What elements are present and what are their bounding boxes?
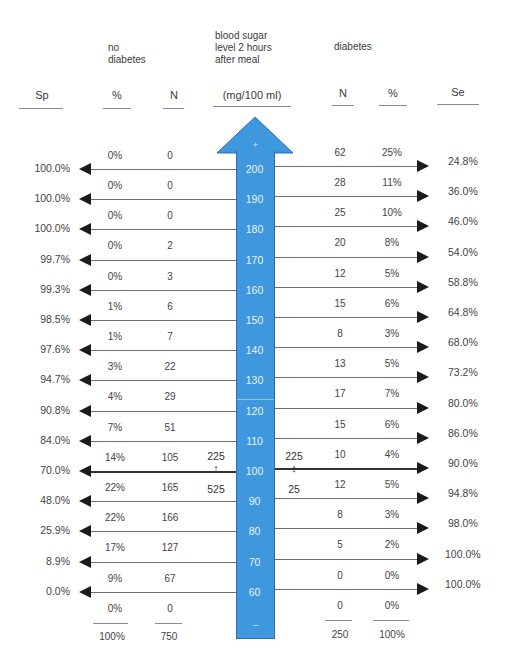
threshold-line-left bbox=[88, 260, 237, 261]
arrowhead-left-icon bbox=[79, 586, 91, 598]
sensitivity-value: 94.8% bbox=[448, 487, 505, 499]
arrowhead-right-icon bbox=[417, 190, 429, 202]
no-diabetes-n: 2 bbox=[150, 240, 190, 251]
diabetes-pct: 0% bbox=[372, 600, 412, 611]
arrowhead-right-icon bbox=[417, 281, 429, 293]
no-diabetes-pct: 0% bbox=[95, 210, 135, 221]
no-diabetes-pct: 1% bbox=[95, 331, 135, 342]
diabetes-n: 20 bbox=[320, 237, 360, 248]
threshold-line-right bbox=[274, 287, 418, 288]
specificity-value: 100.0% bbox=[10, 192, 70, 204]
diabetes-pct: 11% bbox=[372, 177, 412, 188]
column-header-d-n: N bbox=[332, 87, 354, 99]
specificity-value: 94.7% bbox=[10, 373, 70, 385]
diabetes-pct: 0% bbox=[372, 570, 412, 581]
column-header-unit: (mg/100 ml) bbox=[213, 89, 291, 101]
blood-sugar-tick: 130 bbox=[236, 374, 273, 386]
no-diabetes-n: 6 bbox=[150, 301, 190, 312]
no-diabetes-pct: 14% bbox=[95, 452, 135, 463]
column-underline-d-pct bbox=[379, 105, 407, 106]
total-d-pct: 100% bbox=[372, 629, 412, 640]
arrowhead-left-icon bbox=[79, 254, 91, 266]
specificity-value: 100.0% bbox=[10, 162, 70, 174]
no-diabetes-n: 67 bbox=[150, 573, 190, 584]
arrowhead-right-icon bbox=[417, 371, 429, 383]
no-diabetes-n: 51 bbox=[150, 422, 190, 433]
diabetes-n: 10 bbox=[320, 449, 360, 460]
plus-icon: + bbox=[236, 140, 275, 150]
diabetes-pct: 8% bbox=[372, 237, 412, 248]
threshold-line-right bbox=[274, 347, 418, 348]
no-diabetes-n: 22 bbox=[150, 361, 190, 372]
diabetes-pct: 10% bbox=[372, 207, 412, 218]
diabetes-pct: 2% bbox=[372, 539, 412, 550]
sensitivity-value: 64.8% bbox=[448, 306, 505, 318]
threshold-line-right bbox=[274, 317, 418, 318]
no-diabetes-n: 127 bbox=[150, 542, 190, 553]
sensitivity-value: 100.0% bbox=[445, 578, 505, 590]
blood-sugar-tick: 160 bbox=[236, 284, 273, 296]
header-blood-sugar: blood sugar level 2 hours after meal bbox=[215, 30, 272, 66]
diabetes-pct: 5% bbox=[372, 479, 412, 490]
threshold-line-right bbox=[274, 528, 418, 529]
threshold-line-right bbox=[274, 438, 418, 439]
arrowhead-left-icon bbox=[79, 495, 91, 507]
column-header-nd-pct: % bbox=[103, 89, 131, 101]
sensitivity-value: 98.0% bbox=[448, 517, 505, 529]
threshold-line-left bbox=[88, 290, 237, 291]
diabetes-pct: 5% bbox=[372, 358, 412, 369]
arrowhead-left-icon bbox=[79, 314, 91, 326]
diabetes-pct: 3% bbox=[372, 328, 412, 339]
no-diabetes-n: 0 bbox=[150, 180, 190, 191]
no-diabetes-pct: 22% bbox=[95, 512, 135, 523]
sensitivity-value: 90.0% bbox=[448, 457, 505, 469]
arrowhead-right-icon bbox=[417, 160, 429, 172]
no-diabetes-n: 105 bbox=[150, 452, 190, 463]
arrowhead-left-icon bbox=[79, 435, 91, 447]
arrowhead-right-icon bbox=[417, 462, 429, 474]
diabetes-n: 62 bbox=[320, 147, 360, 158]
arrow-faint-divider bbox=[237, 399, 274, 400]
blood-sugar-tick: 200 bbox=[236, 163, 273, 175]
diabetes-pct: 4% bbox=[372, 449, 412, 460]
specificity-value: 48.0% bbox=[10, 494, 70, 506]
diabetes-n: 15 bbox=[320, 419, 360, 430]
column-underline-nd-n bbox=[163, 108, 184, 109]
specificity-value: 98.5% bbox=[10, 313, 70, 325]
no-diabetes-pct: 3% bbox=[95, 361, 135, 372]
threshold-line-left bbox=[88, 380, 237, 381]
cutoff-right-above: 225 bbox=[279, 450, 309, 462]
no-diabetes-pct: 0% bbox=[95, 603, 135, 614]
arrowhead-right-icon bbox=[417, 251, 429, 263]
diabetes-pct: 25% bbox=[372, 147, 412, 158]
cutoff-left-below: 525 bbox=[201, 483, 231, 495]
arrowhead-left-icon bbox=[79, 344, 91, 356]
total-underline-nd-n bbox=[155, 623, 182, 624]
arrowhead-left-icon bbox=[79, 374, 91, 386]
arrowhead-left-icon bbox=[79, 163, 91, 175]
arrowhead-left-icon bbox=[79, 525, 91, 537]
header-diabetes: diabetes bbox=[334, 41, 372, 53]
total-nd-pct: 100% bbox=[92, 631, 132, 642]
specificity-value: 99.7% bbox=[10, 253, 70, 265]
diabetes-pct: 5% bbox=[372, 268, 412, 279]
up-down-arrow-icon: ↕ bbox=[287, 463, 301, 473]
threshold-line-right bbox=[274, 226, 418, 227]
no-diabetes-n: 0 bbox=[150, 210, 190, 221]
no-diabetes-pct: 0% bbox=[95, 180, 135, 191]
arrowhead-left-icon bbox=[79, 465, 91, 477]
minus-icon: – bbox=[236, 620, 275, 630]
threshold-line-right bbox=[274, 196, 418, 197]
no-diabetes-n: 165 bbox=[150, 482, 190, 493]
specificity-value: 84.0% bbox=[10, 434, 70, 446]
sensitivity-value: 54.0% bbox=[448, 246, 505, 258]
blood-sugar-tick: 90 bbox=[236, 495, 273, 507]
sensitivity-value: 36.0% bbox=[448, 185, 505, 197]
column-header-sp: Sp bbox=[20, 89, 64, 101]
blood-sugar-tick: 190 bbox=[236, 193, 273, 205]
blood-sugar-tick: 120 bbox=[236, 405, 273, 417]
diabetes-n: 0 bbox=[320, 570, 360, 581]
specificity-value: 25.9% bbox=[10, 524, 70, 536]
threshold-line-right bbox=[274, 377, 418, 378]
column-underline-sp bbox=[19, 108, 63, 109]
